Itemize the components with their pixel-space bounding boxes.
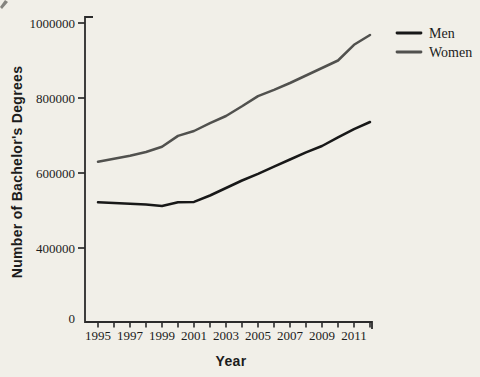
y-tick-label: 1000000 <box>30 16 76 31</box>
x-tick-label: 2009 <box>309 328 335 343</box>
legend: MenWomen <box>397 26 472 60</box>
x-tick-labels: 199519971999200120032005200720092011 <box>85 322 370 343</box>
x-tick-label: 2011 <box>341 328 367 343</box>
scan-artifact-speck <box>0 0 8 9</box>
legend-label-men: Men <box>429 26 455 41</box>
chart-canvas: 04000006000008000001000000 1995199719992… <box>0 0 480 377</box>
x-tick-label: 1999 <box>149 328 175 343</box>
y-tick-label: 800000 <box>36 91 75 106</box>
y-tick-label: 0 <box>69 311 76 326</box>
x-tick-label: 2003 <box>213 328 239 343</box>
x-tick-label: 1995 <box>85 328 111 343</box>
men-line <box>98 122 370 206</box>
x-tick-label: 1997 <box>117 328 144 343</box>
x-tick-label: 2007 <box>277 328 304 343</box>
y-tick-label: 600000 <box>36 166 75 181</box>
y-tick-labels: 04000006000008000001000000 <box>30 16 86 326</box>
degrees-line-chart-figure: 04000006000008000001000000 1995199719992… <box>0 0 480 377</box>
data-series <box>98 35 370 206</box>
x-axis-title: Year <box>216 353 247 369</box>
y-tick-label: 400000 <box>36 241 75 256</box>
x-tick-label: 2001 <box>181 328 207 343</box>
y-axis-title: Number of Bachelor's Degrees <box>9 66 25 278</box>
legend-label-women: Women <box>429 45 472 60</box>
x-tick-label: 2005 <box>245 328 271 343</box>
